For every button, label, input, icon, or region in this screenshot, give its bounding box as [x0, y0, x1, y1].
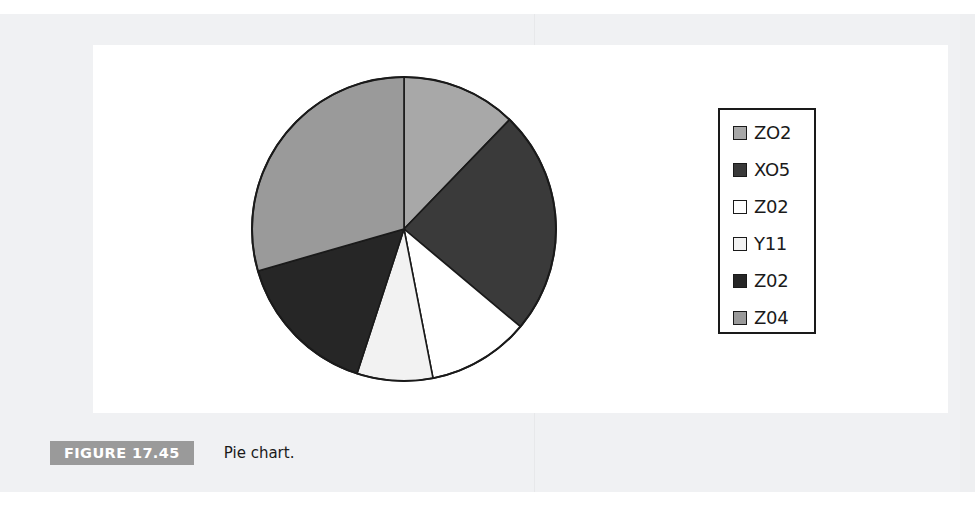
- pie-chart: [93, 45, 948, 413]
- legend-item-4[interactable]: Z02: [733, 270, 788, 292]
- pie-slice-group: [252, 77, 556, 381]
- legend-label-5: Z04: [754, 309, 788, 327]
- legend-swatch-icon-5: [733, 311, 747, 325]
- legend-item-0[interactable]: ZO2: [733, 122, 791, 144]
- legend-item-5[interactable]: Z04: [733, 307, 788, 329]
- legend-item-2[interactable]: Z02: [733, 196, 788, 218]
- legend-item-3[interactable]: Y11: [733, 233, 787, 255]
- legend-label-0: ZO2: [754, 124, 791, 142]
- figure-number-badge: FIGURE 17.45: [50, 441, 194, 466]
- legend-label-1: XO5: [754, 161, 790, 179]
- legend-swatch-icon-4: [733, 274, 747, 288]
- figure-caption-text: Pie chart.: [224, 444, 295, 462]
- figure-white-panel: ZO2 XO5 Z02 Y11 Z02 Z04: [93, 45, 948, 413]
- legend-swatch-icon-2: [733, 200, 747, 214]
- figure-page: ZO2 XO5 Z02 Y11 Z02 Z04: [0, 0, 975, 506]
- legend-item-1[interactable]: XO5: [733, 159, 790, 181]
- legend-swatch-icon-3: [733, 237, 747, 251]
- page-edge-shade: [960, 14, 975, 492]
- legend-label-2: Z02: [754, 198, 788, 216]
- chart-legend: ZO2 XO5 Z02 Y11 Z02 Z04: [718, 108, 816, 334]
- figure-caption: FIGURE 17.45 Pie chart.: [50, 440, 294, 466]
- pie-chart-svg: [93, 45, 948, 413]
- legend-label-3: Y11: [754, 235, 787, 253]
- legend-swatch-icon-1: [733, 163, 747, 177]
- legend-swatch-icon-0: [733, 126, 747, 140]
- legend-label-4: Z02: [754, 272, 788, 290]
